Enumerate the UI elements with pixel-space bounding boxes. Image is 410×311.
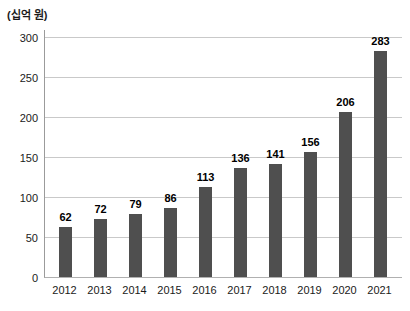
bar-chart: (십억 원) 62727986113136141156206283 050100… [0, 0, 410, 311]
gridline [45, 37, 402, 38]
bar [199, 187, 212, 277]
x-tick-label: 2012 [52, 284, 76, 296]
bar [129, 214, 142, 277]
plot-area: 62727986113136141156206283 [44, 30, 402, 278]
bar-value-label: 156 [301, 136, 319, 148]
y-tick-label: 100 [2, 192, 38, 204]
y-tick-label: 150 [2, 152, 38, 164]
gridline [45, 77, 402, 78]
x-tick-label: 2019 [297, 284, 321, 296]
bar [234, 168, 247, 277]
y-tick-label: 300 [2, 32, 38, 44]
x-tick-label: 2013 [87, 284, 111, 296]
bar [59, 227, 72, 277]
y-tick-label: 250 [2, 72, 38, 84]
x-tick-label: 2014 [122, 284, 146, 296]
bar-value-label: 79 [129, 198, 141, 210]
y-tick-label: 0 [2, 272, 38, 284]
bar-value-label: 283 [371, 35, 389, 47]
bar-value-label: 72 [94, 203, 106, 215]
x-tick-label: 2016 [192, 284, 216, 296]
bar-value-label: 86 [164, 192, 176, 204]
x-tick-label: 2017 [227, 284, 251, 296]
bar [374, 51, 387, 277]
bar [269, 164, 282, 277]
x-tick-label: 2021 [367, 284, 391, 296]
bar [164, 208, 177, 277]
y-axis-unit-label: (십억 원) [7, 6, 47, 22]
bar-value-label: 206 [336, 96, 354, 108]
x-tick-label: 2018 [262, 284, 286, 296]
x-tick-label: 2020 [332, 284, 356, 296]
bar [94, 219, 107, 277]
y-tick-label: 200 [2, 112, 38, 124]
bar-value-label: 62 [59, 211, 71, 223]
bar [304, 152, 317, 277]
bar-value-label: 136 [231, 152, 249, 164]
x-tick-label: 2015 [157, 284, 181, 296]
bar [339, 112, 352, 277]
bar-value-label: 141 [266, 148, 284, 160]
y-tick-label: 50 [2, 232, 38, 244]
bar-value-label: 113 [197, 171, 215, 183]
